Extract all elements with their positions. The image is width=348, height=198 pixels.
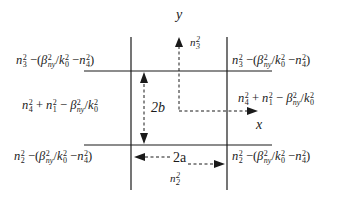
y-axis-label: y [176,7,182,23]
region-middle-left: n24 + n21 − β2ny/k20 [22,99,98,113]
x-axis-arrow [179,107,258,115]
top-cladding-index-label: n23 [190,36,200,50]
region-top-left: n23 −(β2ny/k20 −n24) [16,54,94,68]
x-axis-label: x [256,117,262,133]
height-dimension-arrow [140,72,148,144]
y-axis-arrow [175,37,183,111]
region-middle-right: n24 + n21 − β2ny/k20 [238,92,314,106]
region-bottom-right: n22 −(β2ny/k20 −n24) [232,150,310,164]
height-dimension-label: 2b [150,100,166,116]
region-bottom-left: n22 −(β2ny/k20 −n24) [14,150,92,164]
bottom-cladding-index-label: n22 [170,172,180,186]
width-dimension-label: 2a [172,150,187,166]
region-top-right: n23 −(β2ny/k20 −n24) [232,54,310,68]
